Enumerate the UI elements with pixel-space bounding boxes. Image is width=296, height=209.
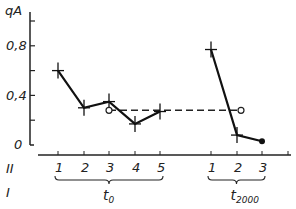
svg-text:4: 4 xyxy=(132,160,140,175)
svg-text:2: 2 xyxy=(81,160,89,175)
row-label-I: I xyxy=(6,185,10,200)
svg-text:3: 3 xyxy=(106,160,114,175)
svg-text:1: 1 xyxy=(208,160,216,175)
y-tick-0: 0 xyxy=(14,137,22,152)
chart: 12345t0123t2000 qA 0,8 0,4 0 II I xyxy=(0,0,296,209)
y-tick-0.8: 0,8 xyxy=(6,38,27,53)
svg-text:t2000: t2000 xyxy=(231,187,260,205)
svg-text:5: 5 xyxy=(157,160,165,175)
svg-text:1: 1 xyxy=(55,160,63,175)
row-label-II: II xyxy=(6,161,14,176)
svg-text:t0: t0 xyxy=(103,187,115,205)
y-tick-0.4: 0,4 xyxy=(6,88,27,103)
y-axis-label: qA xyxy=(5,3,22,18)
svg-text:3: 3 xyxy=(259,160,267,175)
svg-text:2: 2 xyxy=(234,160,242,175)
plot-area: 12345t0123t2000 xyxy=(0,0,296,209)
